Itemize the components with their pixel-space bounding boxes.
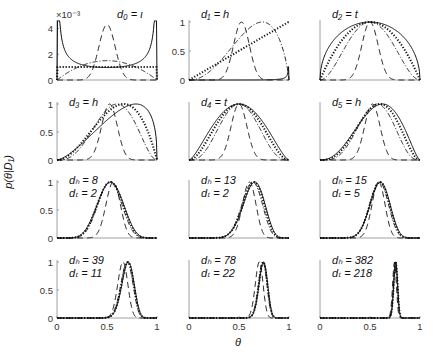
- subplot-3: d₂ = t: [320, 8, 420, 80]
- curve-dashdot: [189, 104, 289, 160]
- panel-label: dₕ = 78: [201, 254, 237, 266]
- curve-dashed: [57, 25, 157, 80]
- y-tick-label: 0.5: [40, 205, 53, 216]
- curve-dashed: [189, 104, 289, 160]
- curve-dashed: [320, 104, 420, 160]
- panel-label: dₜ = 5: [332, 187, 361, 199]
- y-tick-label: 0.5: [40, 285, 53, 296]
- curve-solid: [57, 104, 157, 160]
- panel-label: dₕ = 15: [332, 174, 368, 186]
- subplot-9: dₕ = 15dₜ = 5: [320, 174, 420, 238]
- panel-label: dₜ = 22: [201, 267, 235, 279]
- curve-dashdot: [57, 61, 157, 80]
- x-tick-label: 0.5: [232, 321, 245, 332]
- curve-dotted: [320, 22, 420, 80]
- y-tick-label: 0: [48, 155, 53, 166]
- x-tick-label: 0.5: [100, 321, 113, 332]
- y-tick-label: 1: [48, 257, 53, 268]
- panel-label: dₜ = 11: [69, 267, 102, 279]
- panel-label: d₁ = h: [201, 8, 229, 20]
- beta-posterior-figure: 024×10⁻³d₀ = ι00.51d₁ = hd₂ = t00.51d₃ =…: [0, 0, 433, 355]
- panel-label: dₕ = 382: [332, 254, 373, 266]
- y-tick-label: 0: [180, 75, 185, 86]
- y-tick-label: 0: [48, 233, 53, 244]
- panel-label: d₀ = ι: [117, 8, 143, 20]
- subplot-5: d₄ = t: [189, 96, 289, 160]
- y-axis-label: p(θ|D₁): [2, 155, 14, 190]
- panel-label: d₂ = t: [332, 8, 359, 20]
- curve-solid: [57, 21, 157, 80]
- subplot-6: d₅ = h: [320, 96, 420, 160]
- axes-frame: [57, 20, 157, 80]
- x-tick-label: 0: [317, 321, 322, 332]
- curve-dashed: [320, 22, 420, 80]
- panel-grid: 024×10⁻³d₀ = ι00.51d₁ = hd₂ = t00.51d₃ =…: [40, 8, 423, 332]
- x-tick-label: 1: [417, 321, 422, 332]
- subplot-11: 00.51dₕ = 78dₜ = 22: [186, 254, 291, 332]
- panel-label: dₕ = 8: [69, 174, 99, 186]
- x-tick-label: 1: [286, 321, 291, 332]
- curve-dotted: [320, 104, 420, 160]
- panel-label: d₄ = t: [201, 96, 228, 108]
- curve-dotted: [189, 104, 289, 160]
- y-tick-label: 0.5: [40, 127, 53, 138]
- panel-label: dₜ = 218: [332, 267, 373, 279]
- y-tick-label: 1: [48, 99, 53, 110]
- curve-solid: [189, 67, 289, 80]
- curve-solid: [320, 22, 420, 80]
- y-tick-label: 0: [48, 75, 53, 86]
- x-tick-label: 0.5: [363, 321, 376, 332]
- subplot-2: 00.51d₁ = h: [172, 8, 289, 86]
- y-tick-label: 1: [48, 177, 53, 188]
- subplot-10: 00.5100.51dₕ = 39dₜ = 11: [40, 254, 160, 332]
- x-tick-label: 1: [154, 321, 159, 332]
- curve-dashdot: [320, 104, 420, 160]
- axes-frame: [189, 102, 289, 160]
- panel-label: d₅ = h: [332, 96, 361, 108]
- y-multiplier: ×10⁻³: [56, 9, 80, 20]
- curve-dotted: [189, 22, 289, 80]
- x-tick-label: 0: [54, 321, 59, 332]
- panel-label: dₜ = 2: [69, 187, 97, 199]
- panel-label: d₃ = h: [69, 96, 98, 108]
- y-tick-label: 0.5: [172, 46, 185, 57]
- subplot-12: 00.51dₕ = 382dₜ = 218: [317, 254, 422, 332]
- curve-dotted: [57, 67, 157, 80]
- y-tick-label: 4: [48, 23, 53, 34]
- subplot-4: 00.51d₃ = h: [40, 96, 157, 166]
- panel-label: dₜ = 2: [201, 187, 229, 199]
- y-tick-label: 2: [48, 49, 53, 60]
- curve-solid: [320, 104, 420, 160]
- curve-solid: [189, 104, 289, 160]
- panel-label: dₕ = 13: [201, 174, 237, 186]
- subplot-1: 024×10⁻³d₀ = ι: [48, 8, 157, 86]
- curve-dashdot: [320, 22, 420, 80]
- subplot-8: dₕ = 13dₜ = 2: [189, 174, 289, 238]
- x-tick-label: 0: [186, 321, 191, 332]
- panel-label: dₕ = 39: [69, 254, 104, 266]
- x-axis-label: θ: [235, 336, 241, 348]
- y-tick-label: 0: [48, 313, 53, 324]
- y-tick-label: 1: [180, 17, 185, 28]
- subplot-7: 00.51dₕ = 8dₜ = 2: [40, 174, 157, 244]
